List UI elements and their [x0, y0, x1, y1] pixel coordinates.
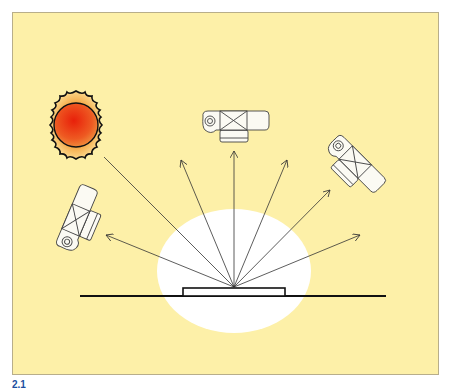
camera-icon	[318, 134, 387, 203]
sample-object	[183, 288, 285, 296]
camera-icon	[203, 111, 269, 142]
figure-caption: 2.1	[12, 379, 26, 390]
sun-icon	[50, 91, 102, 159]
camera-icon	[55, 184, 109, 257]
